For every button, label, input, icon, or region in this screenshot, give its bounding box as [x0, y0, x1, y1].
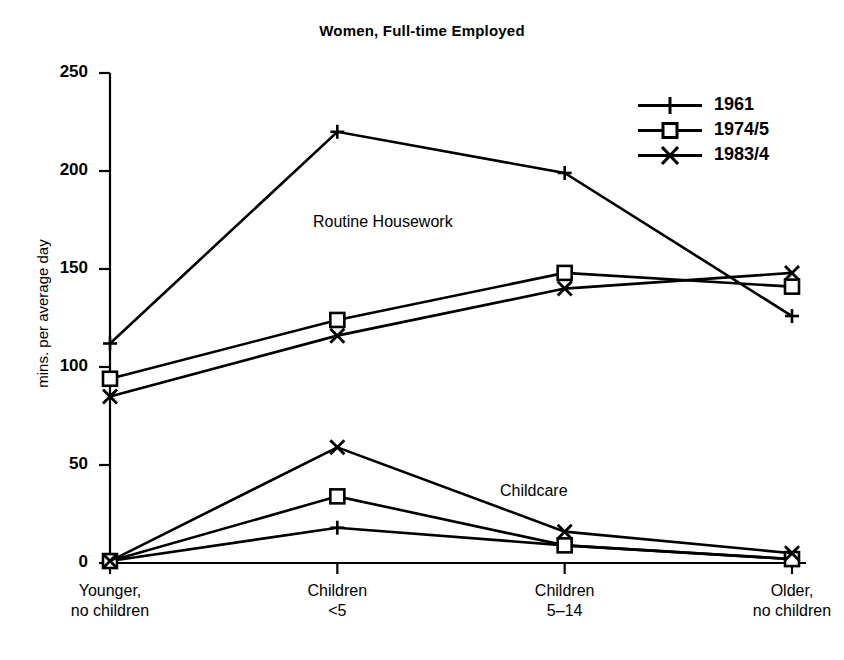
- y-tick-label: 100: [32, 356, 88, 376]
- legend-item-1961: 1961: [636, 93, 826, 118]
- marker-square-icon: [103, 372, 117, 386]
- marker-square-icon: [558, 538, 572, 552]
- y-tick-label: 200: [32, 160, 88, 180]
- legend-item-1983-4: 1983/4: [636, 143, 826, 168]
- x-tick-label-line: <5: [232, 601, 442, 621]
- x-tick-label-line: Children: [460, 581, 670, 601]
- legend-label: 1961: [714, 94, 754, 115]
- x-tick-label-line: no children: [687, 601, 844, 621]
- x-tick-label-line: 5–14: [460, 601, 670, 621]
- x-tick-label: Older,no children: [687, 581, 844, 620]
- legend-marker-cross-icon: [636, 143, 704, 168]
- x-tick-label-line: no children: [5, 601, 215, 621]
- legend-label: 1974/5: [714, 119, 769, 140]
- x-tick-label-line: Younger,: [5, 581, 215, 601]
- series-line: [110, 273, 792, 379]
- x-tick-label: Children5–14: [460, 581, 670, 620]
- annotation-childcare: Childcare: [500, 482, 568, 500]
- marker-square-icon: [330, 313, 344, 327]
- series-line: [110, 496, 792, 561]
- marker-square-icon: [330, 489, 344, 503]
- series-1974-5-childcare: [103, 489, 799, 568]
- legend-label: 1983/4: [714, 144, 769, 165]
- series-1983-4-routine-housework: [103, 266, 799, 403]
- y-tick-label: 0: [32, 552, 88, 572]
- x-tick-label: Children<5: [232, 581, 442, 620]
- marker-square-icon: [558, 266, 572, 280]
- series-line: [110, 273, 792, 396]
- legend-marker-plus-icon: [636, 93, 704, 118]
- marker-square-icon: [785, 280, 799, 294]
- y-axis-label: mins. per average day: [34, 184, 51, 444]
- chart-container: Women, Full-time Employed mins. per aver…: [0, 0, 844, 660]
- chart-title: Women, Full-time Employed: [0, 22, 844, 39]
- y-tick-label: 50: [32, 454, 88, 474]
- legend-item-1974-5: 1974/5: [636, 118, 826, 143]
- x-tick-label-line: Children: [232, 581, 442, 601]
- chart-legend: 1961 1974/5 1983/4: [636, 93, 826, 168]
- series-1983-4-childcare: [103, 440, 799, 568]
- y-tick-label: 250: [32, 62, 88, 82]
- x-tick-label-line: Older,: [687, 581, 844, 601]
- annotation-routine-housework: Routine Housework: [313, 213, 453, 231]
- legend-marker-square-icon: [636, 118, 704, 143]
- y-tick-label: 150: [32, 258, 88, 278]
- series-1974-5-routine-housework: [103, 266, 799, 386]
- x-tick-label: Younger,no children: [5, 581, 215, 620]
- series-line: [110, 447, 792, 561]
